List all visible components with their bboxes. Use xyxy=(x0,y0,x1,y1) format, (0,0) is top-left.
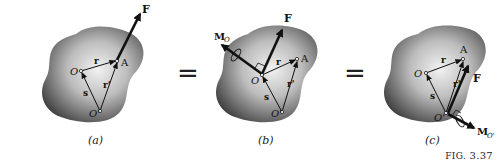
point-a-label: A xyxy=(120,57,129,68)
moment-subscript: O xyxy=(224,36,230,44)
vector-r-label: r xyxy=(276,57,281,67)
panel-b: F M O A O O' r r' s xyxy=(214,12,318,122)
vector-s-label: s xyxy=(430,91,435,101)
vector-r-label: r xyxy=(441,55,446,65)
moment-subscript: O' xyxy=(487,132,495,140)
point-a-label: A xyxy=(459,44,468,55)
point-a-dot xyxy=(115,59,118,62)
vector-s-label: s xyxy=(83,88,88,98)
point-o-prime-label: O' xyxy=(434,112,445,123)
equals-sign-1: = xyxy=(177,60,199,86)
force-label: F xyxy=(284,12,292,25)
rigid-body xyxy=(384,26,486,123)
force-label: F xyxy=(142,3,150,16)
point-o-label: O xyxy=(414,68,422,79)
caption-b: (b) xyxy=(258,134,274,147)
rigid-body xyxy=(216,26,318,123)
vector-r-prime-label: r' xyxy=(287,79,295,89)
caption-c: (c) xyxy=(425,134,440,147)
vector-r-prime-label: r' xyxy=(103,80,111,90)
vector-r-prime-label: r' xyxy=(453,79,461,89)
point-a-dot xyxy=(461,57,464,60)
caption-a: (a) xyxy=(88,134,103,147)
point-o-prime-label: O' xyxy=(271,108,282,119)
force-label: F xyxy=(473,72,481,85)
moment-arrow xyxy=(448,114,474,128)
point-a-dot xyxy=(295,57,298,60)
point-o-dot xyxy=(79,69,82,72)
point-o-label: O xyxy=(251,75,259,86)
point-o-dot xyxy=(260,73,263,76)
figure-label-prefix: FIG. xyxy=(445,151,466,161)
equals-sign-2: = xyxy=(344,60,366,86)
point-o-prime-label: O' xyxy=(89,108,100,119)
panel-a: F A O O' r r' s xyxy=(42,3,150,122)
point-o-dot xyxy=(424,71,427,74)
figure-label-number: 3.37 xyxy=(470,150,493,161)
panel-c: F M O' A O O' r r' s xyxy=(384,26,495,141)
vector-s-label: s xyxy=(264,92,269,102)
point-a-label: A xyxy=(300,53,309,64)
vector-r-label: r xyxy=(94,56,99,66)
point-o-label: O xyxy=(70,66,78,77)
figure-label: FIG. 3.37 xyxy=(445,150,493,161)
